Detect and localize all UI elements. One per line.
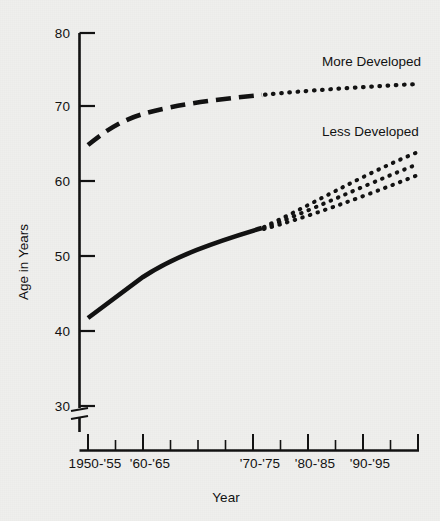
more-developed-observed-line <box>88 95 262 145</box>
less-developed-observed-line <box>88 228 262 318</box>
x-tick-label-80-85: '80-'85 <box>295 456 335 471</box>
x-tick-label-1950-55: 1950-'55 <box>69 456 122 471</box>
less-developed-projected-low-line <box>264 175 418 229</box>
y-tick-label-70: 70 <box>36 99 70 114</box>
y-axis <box>71 33 95 432</box>
more-developed-projected-line <box>265 84 418 95</box>
x-tick-label-90-95: '90-'95 <box>350 456 390 471</box>
less-developed-projected-medium-line <box>264 164 418 228</box>
y-tick-label-80: 80 <box>36 26 70 41</box>
series-label-less-developed: Less Developed <box>322 124 419 139</box>
x-tick-label-60-65: '60-'65 <box>130 456 170 471</box>
x-axis-title: Year <box>212 490 239 505</box>
y-tick-label-50: 50 <box>36 249 70 264</box>
y-tick-label-30: 30 <box>36 399 70 414</box>
series-label-more-developed: More Developed <box>322 54 421 69</box>
y-axis-title: Age in Years <box>16 224 31 300</box>
x-tick-label-70-75: '70-'75 <box>240 456 280 471</box>
y-tick-label-40: 40 <box>36 324 70 339</box>
y-tick-label-60: 60 <box>36 174 70 189</box>
less-developed-projected-high-line <box>264 152 418 227</box>
series-less-developed <box>88 152 418 318</box>
life-expectancy-chart: 80 70 60 50 40 30 1950-'55 '60-'65 '70-'… <box>0 0 440 521</box>
x-axis <box>80 434 420 451</box>
